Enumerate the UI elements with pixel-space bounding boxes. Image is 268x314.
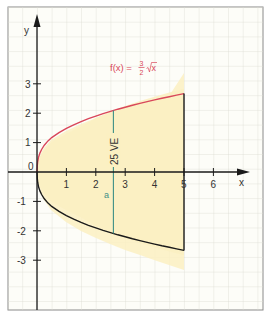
- y-tick-label: -3: [17, 255, 26, 266]
- x-tick-label: 6: [211, 179, 217, 190]
- graph-figure: y x 0 1 2 3 4 5 6 3 2 1 -1 -2 -3 f(x) = …: [0, 0, 268, 314]
- unit-label: 25 VE: [109, 137, 120, 165]
- x-axis-label: x: [239, 177, 244, 188]
- svg-text:x: x: [152, 63, 157, 73]
- svg-text:2: 2: [140, 69, 144, 76]
- y-tick-label: 2: [25, 108, 31, 119]
- y-tick-label: 3: [25, 79, 31, 90]
- svg-text:3: 3: [140, 60, 144, 67]
- y-axis-label: y: [24, 25, 29, 36]
- x-tick-label: 2: [93, 179, 99, 190]
- y-tick-label: -1: [17, 196, 26, 207]
- x-tick-label: 4: [152, 179, 158, 190]
- svg-text:f(x) =: f(x) =: [110, 62, 132, 73]
- y-tick-label: 1: [25, 137, 31, 148]
- origin-label: 0: [28, 161, 34, 172]
- x-tick-label: 5: [181, 179, 187, 190]
- y-tick-label: -2: [17, 226, 26, 237]
- x-tick-label: 3: [122, 179, 128, 190]
- x-tick-label: 1: [64, 179, 70, 190]
- segment-label: a: [104, 190, 109, 200]
